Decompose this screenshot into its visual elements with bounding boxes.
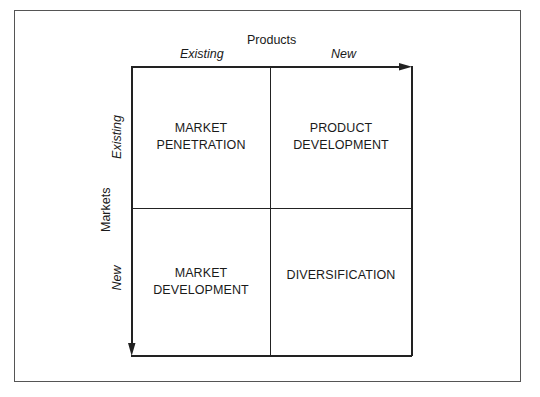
y-axis-label-existing: Existing (110, 112, 124, 162)
y-axis-title: Markets (99, 188, 113, 232)
quadrant-market-penetration: MARKETPENETRATION (131, 66, 271, 208)
bottom-border-line (131, 355, 412, 357)
quadrant-diversification: DIVERSIFICATION (271, 209, 411, 341)
x-axis-label-existing: Existing (180, 47, 224, 61)
quadrant-label-line2: DEVELOPMENT (153, 282, 249, 299)
y-axis-label-new: New (110, 263, 124, 293)
quadrant-product-development: PRODUCTDEVELOPMENT (271, 66, 411, 208)
quadrant-label-line1: MARKET (156, 120, 245, 137)
quadrant-label-line1: PRODUCT (293, 120, 389, 137)
right-border-line (411, 66, 413, 356)
x-axis-label-new: New (331, 47, 356, 61)
quadrant-label-line2: PENETRATION (156, 137, 245, 154)
quadrant-label-line2: DEVELOPMENT (293, 137, 389, 154)
x-axis-title: Products (247, 33, 296, 47)
quadrant-label-line1: DIVERSIFICATION (287, 267, 396, 284)
quadrant-market-development: MARKETDEVELOPMENT (131, 209, 271, 355)
ansoff-matrix: MARKETPENETRATION PRODUCTDEVELOPMENT MAR… (131, 66, 412, 356)
quadrant-label-line1: MARKET (153, 265, 249, 282)
